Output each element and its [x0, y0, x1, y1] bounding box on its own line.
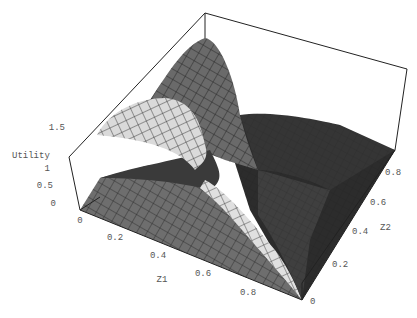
z-axis-label: Utility: [12, 151, 50, 161]
x-tick: 0: [77, 216, 82, 226]
y-tick: 0: [310, 297, 315, 307]
y-tick: 0.6: [370, 198, 386, 208]
z-tick: 0.5: [37, 181, 53, 191]
x-axis-label: Z1: [157, 275, 168, 285]
z-tick: 1.5: [49, 123, 65, 133]
y-tick: 0.2: [332, 260, 348, 270]
z-axis: 0 0.5 1 1.5 Utility: [12, 123, 65, 209]
x-tick: 0.4: [150, 251, 166, 261]
y-axis-label: Z2: [380, 223, 391, 233]
x-tick: 0.2: [107, 233, 123, 243]
y-tick: 0.4: [352, 227, 368, 237]
z-tick: 1: [45, 164, 50, 174]
z-tick: 0: [51, 199, 56, 209]
y-tick: 0.8: [385, 168, 401, 178]
x-tick: 0.8: [240, 288, 256, 298]
x-tick: 0.6: [195, 269, 211, 279]
surface-plot: 0 0.5 1 1.5 Utility 0 0.2 0.4 0.6 0.8 Z1…: [0, 0, 417, 318]
